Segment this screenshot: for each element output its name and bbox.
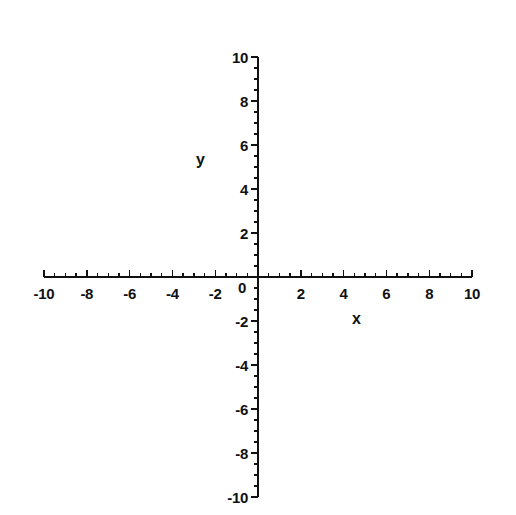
x-tick-label: -4	[166, 286, 179, 301]
x-tick-label: 4	[340, 286, 348, 301]
origin-label: 0	[238, 280, 246, 295]
x-tick-label: -10	[34, 286, 55, 301]
x-tick-label: 10	[464, 286, 480, 301]
y-tick-label: -8	[235, 446, 248, 461]
x-tick-label: 6	[382, 286, 390, 301]
y-tick-label: -6	[235, 402, 248, 417]
y-tick-label: 4	[240, 182, 248, 197]
x-axis-label: x	[352, 311, 361, 327]
y-tick-label: 2	[240, 226, 248, 241]
y-axis-label: y	[196, 152, 205, 168]
y-tick-label: 10	[232, 50, 248, 65]
axes-svg	[0, 0, 516, 515]
x-tick-label: 2	[297, 286, 305, 301]
y-tick-label: -4	[235, 358, 248, 373]
x-tick-label: -8	[80, 286, 93, 301]
y-tick-label: -10	[227, 490, 248, 505]
x-tick-label: -6	[123, 286, 136, 301]
y-tick-label: -2	[235, 314, 248, 329]
x-tick-label: -2	[209, 286, 222, 301]
y-tick-label: 6	[240, 138, 248, 153]
y-tick-label: 8	[240, 94, 248, 109]
x-tick-label: 8	[425, 286, 433, 301]
coordinate-plane-figure: -10-8-6-4-20246810 108642-2-4-6-8-10 x y	[0, 0, 516, 515]
